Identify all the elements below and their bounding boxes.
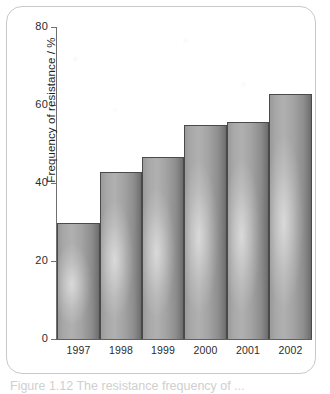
y-tick-label-20: 20 xyxy=(4,255,48,266)
y-tick-label-60: 60 xyxy=(4,99,48,110)
bar-2000 xyxy=(184,125,227,340)
x-tick-label-2002: 2002 xyxy=(269,344,312,357)
y-tick-label-0: 0 xyxy=(4,333,48,344)
figure-caption: Figure 1.12 The resistance frequency of … xyxy=(10,379,328,394)
x-tick-label-1998: 1998 xyxy=(100,344,142,357)
x-axis-line xyxy=(56,339,312,340)
y-axis-tick-labels: 80 60 40 20 0 xyxy=(0,0,48,390)
x-tick-label-1997: 1997 xyxy=(57,344,100,357)
x-tick-label-2001: 2001 xyxy=(227,344,269,357)
x-tick-label-2000: 2000 xyxy=(184,344,227,357)
x-axis-tick-labels: 1997 1998 1999 2000 2001 2002 xyxy=(57,344,312,360)
y-tick-mark-20 xyxy=(51,261,56,262)
bar-1998 xyxy=(100,172,142,340)
x-tick-label-1999: 1999 xyxy=(142,344,184,357)
bar-2001 xyxy=(227,122,269,340)
y-tick-label-80: 80 xyxy=(4,21,48,32)
y-tick-label-40: 40 xyxy=(4,177,48,188)
bar-1999 xyxy=(142,157,184,340)
bar-2002 xyxy=(269,94,312,340)
y-axis-title: Frequency of resistance / % xyxy=(45,0,57,225)
bar-1997 xyxy=(57,223,100,340)
bar-series xyxy=(57,27,312,340)
